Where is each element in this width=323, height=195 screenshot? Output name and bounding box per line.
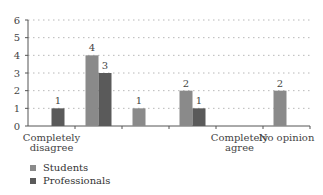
x-category-label: No opinion bbox=[259, 132, 315, 143]
data-label: 1 bbox=[196, 95, 202, 106]
x-category-label: disagree bbox=[30, 142, 74, 153]
legend-label-professionals: Professionals bbox=[43, 174, 110, 187]
legend-swatch-students bbox=[30, 165, 36, 171]
data-label: 1 bbox=[55, 95, 61, 106]
legend-item-professionals: Professionals bbox=[30, 174, 110, 187]
legend: Students Professionals bbox=[30, 161, 110, 187]
bar-students bbox=[274, 91, 287, 126]
bar-students bbox=[133, 108, 146, 126]
y-tick-label: 5 bbox=[14, 32, 20, 43]
bar-chart: 01234564122131CompletelydisagreeComplete… bbox=[0, 0, 323, 160]
bar-students bbox=[180, 91, 193, 126]
y-tick-label: 1 bbox=[14, 103, 20, 114]
bar-professionals bbox=[52, 108, 65, 126]
data-label: 2 bbox=[183, 78, 189, 89]
y-tick-label: 0 bbox=[14, 121, 20, 132]
data-label: 3 bbox=[102, 60, 108, 71]
y-tick-label: 6 bbox=[14, 15, 20, 26]
y-tick-label: 2 bbox=[14, 85, 20, 96]
bar-professionals bbox=[193, 108, 206, 126]
legend-label-students: Students bbox=[43, 161, 88, 174]
y-tick-label: 4 bbox=[14, 50, 20, 61]
data-label: 2 bbox=[277, 78, 283, 89]
y-tick-label: 3 bbox=[14, 68, 20, 79]
bar-students bbox=[86, 55, 99, 126]
legend-item-students: Students bbox=[30, 161, 110, 174]
legend-swatch-professionals bbox=[30, 178, 36, 184]
bar-professionals bbox=[99, 73, 112, 126]
x-category-label: agree bbox=[225, 142, 254, 153]
data-label: 1 bbox=[136, 95, 142, 106]
data-label: 4 bbox=[89, 42, 95, 53]
